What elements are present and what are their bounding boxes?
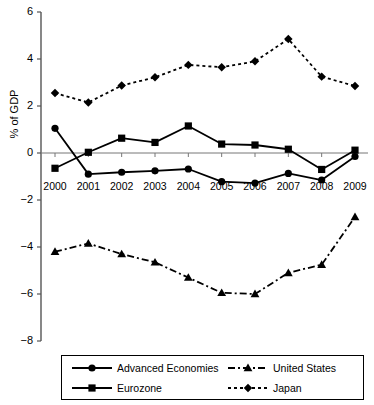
series-japan — [51, 35, 359, 107]
legend-marker-diamond-icon — [226, 380, 270, 396]
legend-label: Japan — [270, 382, 302, 394]
plot-area: % of GDP 6420−2−4−6−82000200120022003200… — [0, 0, 374, 352]
y-axis-title: % of GDP — [8, 79, 20, 149]
y-axis-tick-label: 4 — [11, 53, 33, 64]
y-axis-tick-label: −2 — [11, 194, 33, 205]
y-axis-tick-label: −4 — [11, 241, 33, 252]
y-axis-tick-label: 2 — [11, 100, 33, 111]
legend-item-japan: Japan — [226, 379, 302, 397]
legend-item-united-states: United States — [226, 359, 336, 377]
y-axis-tick-label: 6 — [11, 6, 33, 17]
series-united-states — [51, 213, 360, 298]
series-eurozone — [51, 122, 358, 173]
legend-marker-triangle-icon — [226, 360, 270, 376]
y-axis-tick-label: −8 — [11, 335, 33, 346]
x-axis-tick-label: 2009 — [335, 181, 374, 192]
y-axis-tick-label: −6 — [11, 288, 33, 299]
chart-legend: Advanced Economies Eurozone United State… — [61, 355, 364, 400]
legend-marker-square-icon — [70, 380, 114, 396]
legend-label: Advanced Economies — [114, 362, 219, 374]
legend-item-advanced-economies: Advanced Economies — [70, 359, 219, 377]
legend-marker-circle-icon — [70, 360, 114, 376]
y-axis-tick-label: 0 — [11, 147, 33, 158]
legend-label: United States — [270, 362, 336, 374]
legend-label: Eurozone — [114, 382, 162, 394]
chart-canvas — [0, 0, 374, 352]
chart-figure: % of GDP 6420−2−4−6−82000200120022003200… — [0, 0, 374, 405]
legend-item-eurozone: Eurozone — [70, 379, 162, 397]
